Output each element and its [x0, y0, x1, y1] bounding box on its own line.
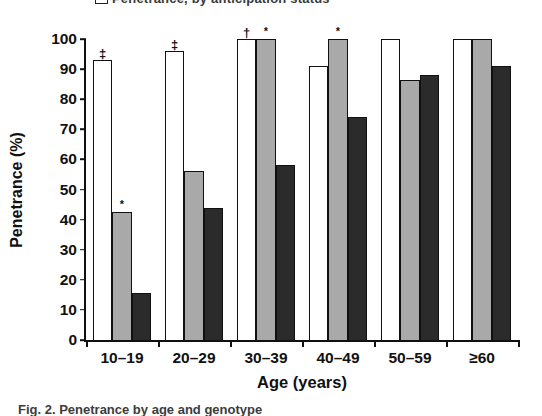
significance-marker: ‡	[99, 47, 106, 60]
legend-clipped-label: Penetrance, by anticipation status	[112, 0, 330, 6]
x-axis-tick	[86, 340, 88, 347]
y-axis-tick-label: 10	[60, 301, 77, 319]
y-axis-tick-label: 40	[60, 211, 77, 229]
x-axis-tick	[446, 340, 448, 347]
x-axis-tick	[230, 340, 232, 347]
x-axis-title: Age (years)	[86, 373, 518, 392]
significance-marker: *	[120, 199, 124, 210]
bar-group: ‡*	[86, 39, 158, 340]
x-axis-category-label: ≥60	[469, 349, 495, 367]
x-axis-category-label: 50–59	[388, 349, 431, 367]
y-axis-tick-label: 0	[68, 331, 77, 349]
y-axis-tick-label: 20	[60, 271, 77, 289]
bar-group-bars	[381, 39, 440, 340]
caption-clipped-label: Fig. 2. Penetrance by age and genotype	[18, 404, 262, 416]
bar-white[interactable]: †	[237, 39, 257, 340]
x-axis-tick	[302, 340, 304, 347]
bar-dark[interactable]	[132, 293, 152, 340]
legend-inner: Penetrance, by anticipation status	[95, 0, 330, 6]
y-axis-tick-label: 30	[60, 241, 77, 259]
bar-gray[interactable]: *	[328, 39, 348, 340]
bar-gray[interactable]	[472, 39, 492, 340]
significance-marker: *	[336, 26, 340, 37]
bar-dark[interactable]	[204, 208, 224, 340]
bar-dark[interactable]	[492, 66, 512, 340]
bar-group-bars: †*	[237, 39, 296, 340]
bar-white[interactable]	[381, 39, 401, 340]
y-axis-tick-label: 60	[60, 150, 77, 168]
y-axis-tick-label: 80	[60, 90, 77, 108]
bar-white[interactable]	[453, 39, 473, 340]
bar-gray[interactable]	[400, 80, 420, 340]
x-axis-tick	[518, 340, 520, 347]
figure-bar-chart: Penetrance, by anticipation status Penet…	[0, 0, 542, 416]
y-axis-title-text: Penetrance (%)	[8, 132, 26, 248]
bar-gray[interactable]: *	[256, 39, 276, 340]
x-axis-tick	[158, 340, 160, 347]
bar-group-bars: *	[309, 39, 368, 340]
significance-marker: ‡	[171, 38, 178, 51]
y-axis-tick-label: 90	[60, 60, 77, 78]
legend-strip-clipped: Penetrance, by anticipation status	[0, 0, 542, 12]
bar-dark[interactable]	[348, 117, 368, 340]
x-axis-category-label: 40–49	[316, 349, 359, 367]
bar-group-bars: ‡	[165, 39, 224, 340]
significance-marker: †	[243, 26, 250, 39]
white-square-swatch-icon	[95, 0, 108, 4]
x-axis-category-label: 10–19	[100, 349, 143, 367]
y-axis-title: Penetrance (%)	[6, 39, 28, 340]
bar-group: †*	[230, 39, 302, 340]
x-axis-category-label: 30–39	[244, 349, 287, 367]
plot-area: 0102030405060708090100 ‡*‡†** 10–1920–29…	[86, 39, 518, 340]
bar-group: *	[302, 39, 374, 340]
y-axis-tick-label: 70	[60, 120, 77, 138]
x-axis-tick	[374, 340, 376, 347]
y-axis-tick-label: 50	[60, 181, 77, 199]
x-axis-category-label: 20–29	[172, 349, 215, 367]
bar-group-bars	[453, 39, 512, 340]
bar-gray[interactable]: *	[112, 212, 132, 340]
bar-white[interactable]: ‡	[93, 60, 113, 340]
bar-group: ‡	[158, 39, 230, 340]
bar-dark[interactable]	[420, 75, 440, 340]
bar-group-bars: ‡*	[93, 39, 152, 340]
caption-strip-clipped: Fig. 2. Penetrance by age and genotype	[0, 404, 542, 416]
y-axis-tick-label: 100	[51, 30, 77, 48]
significance-marker: *	[264, 26, 268, 37]
bar-dark[interactable]	[276, 165, 296, 340]
bar-white[interactable]	[309, 66, 329, 340]
bar-group	[446, 39, 518, 340]
bar-gray[interactable]	[184, 171, 204, 340]
bar-group	[374, 39, 446, 340]
bar-white[interactable]: ‡	[165, 51, 185, 340]
